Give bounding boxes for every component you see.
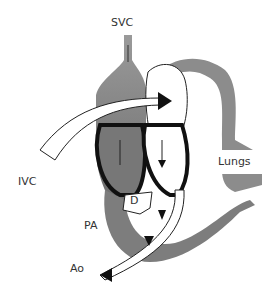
ivc-label: IVC xyxy=(18,175,36,188)
lv-arrowhead xyxy=(158,210,166,220)
ductus-label: D xyxy=(130,194,138,207)
svc-label: SVC xyxy=(111,16,133,29)
pa-label: PA xyxy=(84,219,97,232)
ao-label: Ao xyxy=(70,262,84,275)
circulation-diagram xyxy=(0,0,270,288)
lungs-label: Lungs xyxy=(218,155,251,168)
